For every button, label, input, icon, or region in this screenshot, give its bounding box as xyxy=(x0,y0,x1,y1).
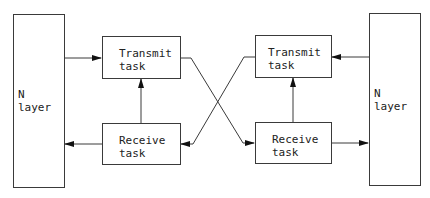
arrow-left-transmit-to-right-receive xyxy=(180,58,254,143)
left-transmit-label-line2: task xyxy=(119,60,180,73)
right-n-layer-label: N layer xyxy=(374,87,420,113)
left-receive-label-line1: Receive xyxy=(119,134,180,147)
right-receive-label-line1: Receive xyxy=(272,133,331,146)
right-transmit-task-box: Transmit task xyxy=(255,35,332,78)
left-transmit-task-box: Transmit task xyxy=(102,36,181,79)
left-receive-label-line2: task xyxy=(119,147,180,160)
left-receive-task-box: Receive task xyxy=(102,123,181,165)
right-transmit-label-line1: Transmit xyxy=(268,46,331,59)
left-n-layer-box: N layer xyxy=(13,14,65,188)
right-n-layer-box: N layer xyxy=(369,13,421,186)
left-transmit-label-line1: Transmit xyxy=(119,47,180,60)
arrow-right-transmit-to-left-receive xyxy=(181,57,255,144)
left-n-layer-label: N layer xyxy=(18,88,64,114)
right-receive-label-line2: task xyxy=(272,146,331,159)
right-receive-task-box: Receive task xyxy=(255,122,332,164)
right-transmit-label-line2: task xyxy=(268,59,331,72)
